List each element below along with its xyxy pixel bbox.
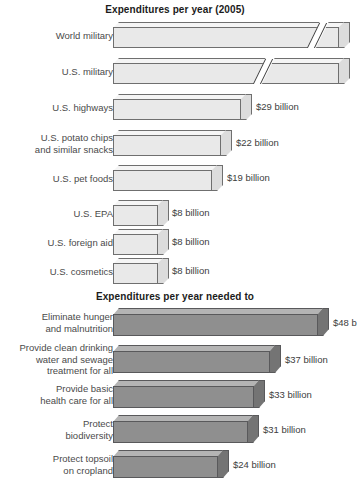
bar-front-face — [113, 27, 339, 48]
bar-value-label: $29 billion — [256, 101, 299, 112]
bar-front-face — [113, 63, 339, 84]
bar-value-label: $22 billion — [236, 137, 279, 148]
row-label: U.S. pet foods — [0, 173, 113, 185]
row-label: U.S. foreign aid — [0, 237, 113, 249]
bar-us-military — [113, 58, 350, 84]
bar-us-highways — [113, 94, 252, 120]
bar-us-pet-foods — [113, 165, 223, 191]
lower-chart-title: Expenditures per year needed to — [0, 291, 350, 302]
bar-basic-health-care — [113, 380, 265, 408]
bar-us-epa — [113, 200, 169, 226]
upper-chart: Expenditures per year (2005) World milit… — [0, 0, 350, 285]
bar-value-label: $24 billion — [233, 459, 276, 470]
bar-clean-drinking-water — [113, 345, 281, 373]
row-label: U.S. highways — [0, 102, 113, 114]
row-label: Provide clean drinking water and sewage … — [0, 342, 113, 377]
bar-front-face — [113, 99, 241, 120]
bar-value-label: $8 billion — [172, 265, 210, 276]
bar-eliminate-hunger — [113, 308, 329, 336]
lower-chart: Expenditures per year needed to Eliminat… — [0, 288, 350, 483]
row-label: Protect topsoil on cropland — [0, 453, 113, 476]
row-label: U.S. cosmetics — [0, 266, 113, 278]
bar-front-face — [113, 205, 158, 226]
bar-protect-topsoil — [113, 450, 229, 478]
bar-front-face — [113, 263, 158, 284]
bar-front-face — [113, 351, 270, 373]
row-label: U.S. potato chips and similar snacks — [0, 132, 113, 155]
bar-value-label: $31 billion — [263, 424, 306, 435]
bar-front-face — [113, 135, 221, 156]
bar-front-face — [113, 386, 254, 408]
bar-us-cosmetics — [113, 258, 169, 284]
upper-chart-title: Expenditures per year (2005) — [0, 4, 350, 15]
bar-us-foreign-aid — [113, 229, 169, 255]
bar-front-face — [113, 234, 158, 255]
bar-value-label: $33 billion — [269, 389, 312, 400]
row-label: World military — [0, 30, 113, 42]
row-label: U.S. military — [0, 66, 113, 78]
bar-value-label: $8 billion — [172, 207, 210, 218]
bar-world-military — [113, 22, 350, 48]
row-label: U.S. EPA — [0, 208, 113, 220]
bar-value-label: $8 billion — [172, 236, 210, 247]
bar-us-potato-chips — [113, 130, 232, 156]
bar-value-label: $19 billion — [227, 172, 270, 183]
row-label: Provide basic health care for all — [0, 383, 113, 406]
bar-front-face — [113, 456, 218, 478]
bar-protect-biodiversity — [113, 415, 259, 443]
bar-front-face — [113, 421, 248, 443]
row-label: Protect biodiversity — [0, 418, 113, 441]
bar-front-face — [113, 314, 318, 336]
bar-value-label: $37 billion — [285, 354, 328, 365]
bar-front-face — [113, 170, 212, 191]
bar-value-label: $48 b — [333, 317, 357, 328]
row-label: Eliminate hunger and malnutrition — [0, 311, 113, 334]
